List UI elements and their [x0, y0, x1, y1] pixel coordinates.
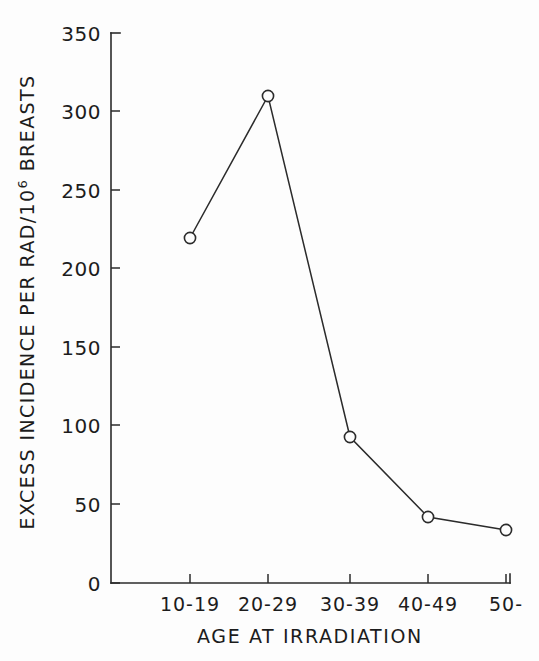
y-tick-label-350: 350: [61, 22, 101, 46]
data-point-50-plus[interactable]: [500, 524, 511, 535]
data-point-10-19[interactable]: [184, 232, 195, 243]
x-tick-label-20-29: 20-29: [238, 593, 298, 615]
data-point-30-39[interactable]: [344, 431, 355, 442]
y-tick-label-250: 250: [61, 179, 101, 203]
y-axis-title-tail: BREASTS: [16, 75, 38, 179]
figure-page: 350 300 250 200 150 100 50 0 10-19 20-29…: [0, 0, 539, 661]
y-axis-title-main: EXCESS INCIDENCE PER RAD/10: [16, 188, 38, 529]
line-chart: 350 300 250 200 150 100 50 0 10-19 20-29…: [0, 0, 539, 661]
y-tick-label-150: 150: [61, 336, 101, 360]
y-tick-label-200: 200: [61, 257, 101, 281]
y-axis-title-superscript: 6: [15, 179, 30, 189]
x-tick-label-30-39: 30-39: [320, 593, 380, 615]
x-tick-label-10-19: 10-19: [160, 593, 220, 615]
y-tick-label-50: 50: [75, 493, 101, 517]
y-tick-label-0: 0: [88, 572, 101, 596]
data-point-20-29[interactable]: [262, 90, 273, 101]
x-tick-label-40-49: 40-49: [398, 593, 458, 615]
y-tick-label-100: 100: [61, 414, 101, 438]
y-axis-title: EXCESS INCIDENCE PER RAD/106 BREASTS: [15, 75, 39, 530]
x-axis-title: AGE AT IRRADIATION: [197, 625, 423, 647]
x-tick-label-50: 50-: [489, 593, 523, 615]
data-point-40-49[interactable]: [422, 511, 433, 522]
y-tick-label-300: 300: [61, 100, 101, 124]
